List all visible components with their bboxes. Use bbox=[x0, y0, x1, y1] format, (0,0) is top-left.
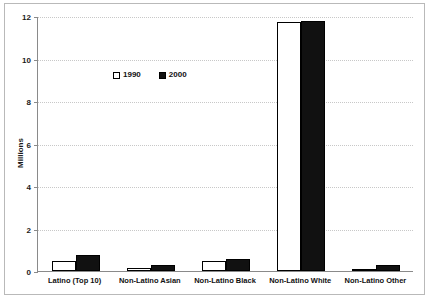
bar-pair bbox=[277, 21, 325, 271]
bar-2000 bbox=[376, 265, 400, 271]
x-axis-labels: Latino (Top 10)Non-Latino AsianNon-Latin… bbox=[37, 276, 413, 285]
bar-group bbox=[338, 17, 413, 271]
bar-pair bbox=[127, 265, 175, 271]
bar-chart-figure: Millions 121086420 Latino (Top 10)Non-La… bbox=[0, 0, 429, 305]
x-axis-label: Non-Latino Other bbox=[338, 276, 413, 285]
bar-1990 bbox=[277, 22, 301, 271]
y-axis-tick bbox=[34, 272, 38, 273]
bar-pair bbox=[52, 255, 100, 271]
y-axis-title: Millions bbox=[16, 138, 25, 168]
x-axis-label: Non-Latino Black bbox=[187, 276, 262, 285]
y-axis-tick-label: 12 bbox=[22, 13, 31, 22]
bar-group bbox=[188, 17, 263, 271]
bar-pair bbox=[352, 265, 400, 271]
bar-1990 bbox=[352, 269, 376, 271]
x-axis-label: Non-Latino White bbox=[263, 276, 338, 285]
bar-group bbox=[38, 17, 113, 271]
y-axis-tick-label: 0 bbox=[27, 268, 31, 277]
y-axis-tick-label: 4 bbox=[27, 183, 31, 192]
y-axis-tick-label: 2 bbox=[27, 225, 31, 234]
x-axis-label: Non-Latino Asian bbox=[112, 276, 187, 285]
bar-group bbox=[113, 17, 188, 271]
legend-label-1990: 1990 bbox=[123, 71, 141, 79]
bar-group bbox=[263, 17, 338, 271]
open-square-marker-icon bbox=[113, 72, 120, 79]
legend-label-2000: 2000 bbox=[169, 71, 187, 79]
legend-item-1990: 1990 bbox=[113, 71, 141, 79]
bar-2000 bbox=[226, 259, 250, 271]
y-axis-tick-label: 8 bbox=[27, 98, 31, 107]
y-axis-tick-label: 10 bbox=[22, 55, 31, 64]
bar-2000 bbox=[301, 21, 325, 271]
bar-2000 bbox=[76, 255, 100, 271]
plot-area: 121086420 bbox=[37, 17, 413, 272]
y-axis-tick-label: 6 bbox=[27, 140, 31, 149]
bar-1990 bbox=[202, 261, 226, 271]
bar-groups-layer bbox=[38, 17, 413, 271]
chart-legend: 1990 2000 bbox=[113, 71, 187, 79]
bar-2000 bbox=[151, 265, 175, 271]
legend-item-2000: 2000 bbox=[159, 71, 187, 79]
x-axis-label: Latino (Top 10) bbox=[37, 276, 112, 285]
bar-pair bbox=[202, 259, 250, 271]
bar-1990 bbox=[52, 261, 76, 271]
filled-square-marker-icon bbox=[159, 72, 166, 79]
bar-1990 bbox=[127, 268, 151, 271]
